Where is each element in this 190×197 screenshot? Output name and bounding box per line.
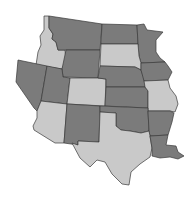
- state-new-mexico[interactable]: [64, 104, 100, 145]
- state-louisiana[interactable]: [150, 135, 184, 159]
- state-arkansas[interactable]: [148, 111, 174, 136]
- state-minnesota[interactable]: [137, 24, 165, 63]
- state-montana[interactable]: [49, 16, 102, 50]
- state-wyoming[interactable]: [62, 50, 100, 78]
- state-iowa[interactable]: [141, 62, 172, 81]
- state-colorado[interactable]: [67, 78, 106, 106]
- state-missouri[interactable]: [144, 80, 178, 112]
- state-kansas[interactable]: [105, 87, 148, 108]
- state-north-dakota[interactable]: [101, 24, 138, 44]
- us-region-map: [0, 0, 190, 197]
